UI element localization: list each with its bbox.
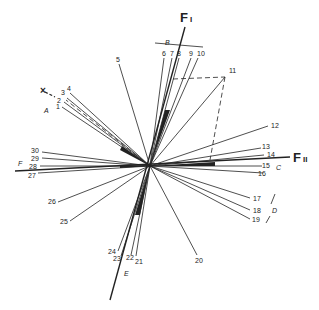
vector-label-27: 27 [28, 172, 36, 179]
vector-label-18: 18 [253, 207, 261, 214]
projection-f2 [210, 77, 225, 160]
vector-label-5: 5 [116, 56, 120, 63]
vector-label-28: 28 [29, 163, 37, 170]
vector-label-9: 9 [189, 50, 193, 57]
vector-label-25: 25 [60, 218, 68, 225]
vector-label-24: 24 [108, 248, 116, 255]
group-d-bracket-top [271, 194, 275, 204]
vector-label-16: 16 [258, 170, 266, 177]
axis-f2-sub: II [303, 155, 307, 164]
vector-label-19: 19 [252, 216, 260, 223]
vector-label-13: 13 [262, 143, 270, 150]
vector-label-30: 30 [31, 147, 39, 154]
marker-x-icon: × [40, 85, 46, 96]
vector-label-20: 20 [195, 257, 203, 264]
vector-label-3: 3 [61, 89, 65, 96]
vector-label-6: 6 [162, 50, 166, 57]
cluster-wedge-e [135, 166, 150, 215]
group-a-label: A [43, 107, 49, 114]
vector-label-8: 8 [177, 50, 181, 57]
group-b-label: B [165, 39, 170, 46]
group-d-bracket-bottom [266, 216, 270, 223]
vector-label-23: 23 [113, 255, 121, 262]
vector-label-1: 1 [56, 103, 60, 110]
vector-label-4: 4 [67, 85, 71, 92]
axis-f1-label: F [180, 10, 188, 25]
vector-label-17: 17 [253, 195, 261, 202]
axis-f1-sub: I [190, 15, 192, 24]
group-f-label: F [18, 160, 23, 167]
vector-label-12: 12 [271, 122, 279, 129]
vector-label-10: 10 [197, 50, 205, 57]
group-c-label: C [276, 164, 282, 171]
vector-label-29: 29 [31, 155, 39, 162]
group-a-dashed [45, 92, 55, 97]
vector-label-22: 22 [126, 254, 134, 261]
vector-label-11: 11 [229, 67, 236, 74]
vector-label-14: 14 [267, 151, 275, 158]
vector-label-7: 7 [170, 50, 174, 57]
vector-label-26: 26 [48, 198, 56, 205]
projection-f1 [173, 77, 225, 79]
vector-label-21: 21 [135, 258, 143, 265]
factor-diagram: F I F II B × A 1 2 3 4 5 6 7 8 9 10 11 1… [0, 0, 319, 310]
axis-f2-label: F [293, 150, 301, 165]
group-a-mean-line [66, 100, 150, 166]
vector-label-2: 2 [57, 97, 61, 104]
group-e-label: E [124, 270, 129, 277]
vector-label-15: 15 [262, 162, 270, 169]
group-d-label: D [272, 207, 277, 214]
